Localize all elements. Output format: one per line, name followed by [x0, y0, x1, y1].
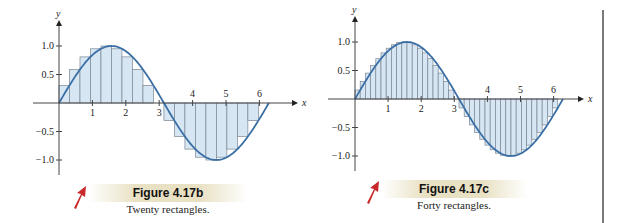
y-tick-label: 1.0	[338, 36, 351, 47]
x-tick-label: 6	[551, 84, 556, 95]
y-tick-label: −0.5	[36, 126, 54, 137]
y-axis-label: y	[351, 4, 357, 15]
y-tick-label: 0.5	[42, 69, 55, 80]
figure-caption: Forty rectangles.	[381, 199, 527, 211]
riemann-rectangle	[443, 81, 448, 99]
y-tick-label: 1.0	[42, 40, 55, 51]
x-axis-arrow-icon	[578, 96, 584, 102]
riemann-rectangle	[490, 99, 495, 150]
y-tick-label: −1.0	[36, 154, 54, 165]
riemann-rectangle	[402, 42, 407, 99]
x-tick-label: 4	[190, 88, 195, 99]
riemann-rectangle	[69, 69, 79, 103]
figure-title: Figure 4.17c	[381, 180, 527, 198]
riemann-rectangle	[381, 53, 386, 99]
riemann-rectangle	[143, 85, 153, 103]
x-tick-label: 5	[224, 88, 229, 99]
riemann-rectangle	[248, 103, 258, 121]
caption-fig-b: Figure 4.17b Twenty rectangles.	[88, 184, 248, 215]
red-pointer-arrow-icon	[74, 186, 86, 209]
riemann-rectangle	[542, 99, 547, 125]
riemann-rectangle	[423, 53, 428, 99]
y-axis-arrow-icon	[352, 16, 358, 22]
riemann-rectangle	[521, 99, 526, 150]
x-tick-label: 1	[386, 103, 391, 114]
x-axis-label: x	[587, 93, 593, 104]
x-tick-label: 2	[123, 107, 128, 118]
riemann-rectangle	[537, 99, 542, 133]
x-axis-label: x	[301, 97, 307, 108]
figure-title: Figure 4.17b	[88, 184, 248, 202]
riemann-rectangle	[495, 99, 500, 153]
riemann-rectangle	[412, 45, 417, 99]
caption-fig-c: Figure 4.17c Forty rectangles.	[381, 180, 527, 211]
riemann-rectangle	[122, 57, 132, 103]
riemann-rectangle	[449, 90, 454, 99]
riemann-rectangle	[227, 103, 237, 149]
riemann-rectangle	[428, 59, 433, 99]
chart-fig-c: xy123456−1.0−0.50.51.0	[328, 4, 593, 204]
riemann-rectangle	[174, 103, 184, 137]
chart-fig-b: xy123456−1.0−0.50.51.0	[33, 8, 307, 209]
riemann-rectangle	[132, 69, 142, 103]
riemann-rectangle	[407, 43, 412, 99]
riemann-rectangle	[417, 48, 422, 99]
riemann-rectangle	[485, 99, 490, 145]
riemann-rectangle	[501, 99, 506, 155]
riemann-rectangle	[433, 65, 438, 99]
riemann-rectangle	[506, 99, 511, 156]
x-tick-label: 5	[518, 84, 523, 95]
riemann-rectangle	[511, 99, 516, 155]
riemann-rectangle	[206, 103, 216, 160]
riemann-rectangle	[90, 49, 100, 103]
riemann-rectangle	[516, 99, 521, 153]
x-tick-label: 2	[419, 103, 424, 114]
y-tick-label: −0.5	[332, 122, 350, 133]
y-tick-label: −1.0	[332, 150, 350, 161]
riemann-rectangle	[386, 48, 391, 99]
x-tick-label: 3	[452, 103, 457, 114]
riemann-rectangle	[532, 99, 537, 139]
riemann-rectangle	[111, 49, 121, 103]
riemann-rectangle	[527, 99, 532, 145]
x-axis-arrow-icon	[292, 100, 298, 106]
riemann-rectangle	[195, 103, 205, 157]
riemann-rectangle	[101, 46, 111, 103]
riemann-rectangle	[438, 73, 443, 99]
riemann-rectangle	[397, 43, 402, 99]
x-tick-label: 3	[157, 107, 162, 118]
figure-caption: Twenty rectangles.	[88, 203, 248, 215]
y-axis-label: y	[55, 8, 61, 19]
x-tick-label: 6	[257, 88, 262, 99]
y-axis-arrow-icon	[56, 20, 62, 26]
riemann-rectangle	[216, 103, 226, 157]
riemann-rectangle	[547, 99, 552, 117]
x-tick-label: 1	[90, 107, 95, 118]
x-tick-label: 4	[485, 84, 490, 95]
red-pointer-arrow-icon	[367, 181, 379, 204]
riemann-rectangle	[237, 103, 247, 137]
riemann-rectangle	[391, 45, 396, 99]
y-tick-label: 0.5	[338, 65, 351, 76]
